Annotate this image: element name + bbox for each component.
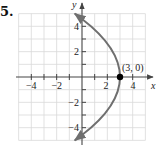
x-tick-label: 4 [131,80,136,91]
y-tick-label: −2 [68,97,79,108]
x-tick-label: 2 [104,80,109,91]
x-axis-label: x [150,80,156,91]
graph: −4 −2 2 4 4 2 −2 −4 x y (3, 0) [0,0,156,150]
vertex-label: (3, 0) [122,62,144,74]
y-tick-label: 2 [74,46,79,57]
y-tick-label: 4 [74,21,79,32]
curve-arrow-bottom [75,135,82,140]
vertex-point [117,74,123,80]
y-axis-label: y [71,0,77,10]
x-tick-label: −2 [51,80,62,91]
x-tick-label: −4 [26,80,37,91]
y-tick-label: −4 [68,122,79,133]
curve-arrow-top [75,14,82,19]
figure: 5. [0,0,156,150]
problem-number: 5. [0,4,14,19]
